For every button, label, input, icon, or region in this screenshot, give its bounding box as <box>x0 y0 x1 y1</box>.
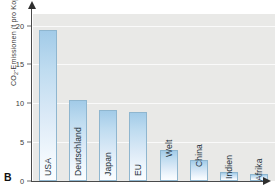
x-axis-arrow-icon <box>263 177 271 185</box>
bar: China <box>190 160 208 181</box>
bar: Welt <box>160 150 178 181</box>
bar-label: China <box>194 144 204 167</box>
x-axis-line <box>31 181 264 182</box>
bar-label: Deutschland <box>73 127 83 176</box>
bar: USA <box>39 30 57 181</box>
bar-label: USA <box>43 158 53 176</box>
y-axis-line <box>31 8 32 181</box>
bar-label: Indien <box>224 155 234 179</box>
y-axis-arrow-icon <box>28 1 36 9</box>
bar: Indien <box>220 172 238 181</box>
y-axis-tick-labels: 05101520 <box>10 0 24 194</box>
bar-label: Japan <box>103 152 113 176</box>
bar-label: Welt <box>164 140 174 157</box>
y-axis-tick-label: 10 <box>10 99 24 108</box>
y-axis-tick-label: 15 <box>10 60 24 69</box>
y-axis-tick-label: 0 <box>10 177 24 186</box>
y-axis-tick-label: 5 <box>10 138 24 147</box>
figure-letter: B <box>4 171 12 183</box>
y-axis-tick-mark <box>27 64 31 65</box>
y-axis-tick-mark <box>27 103 31 104</box>
bar: Japan <box>99 110 117 181</box>
y-axis-tick-label: 20 <box>10 21 24 30</box>
y-axis-tick-mark <box>27 181 31 182</box>
bar: EU <box>129 112 147 181</box>
bars-layer: USADeutschlandJapanEUWeltChinaIndienAfri… <box>33 14 275 181</box>
y-axis-tick-mark <box>27 142 31 143</box>
y-axis-tick-mark <box>27 25 31 26</box>
chart-figure: CO2-Emissionen (t pro Kopf) 05101520 USA… <box>0 0 277 194</box>
bar: Deutschland <box>69 100 87 181</box>
bar-label: EU <box>133 164 143 176</box>
